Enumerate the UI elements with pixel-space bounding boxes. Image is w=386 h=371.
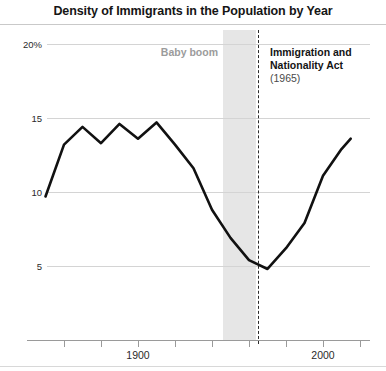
x-tick-1980 <box>286 341 287 347</box>
ina-1965-marker-line <box>258 30 259 344</box>
x-tick-1880 <box>101 341 102 347</box>
x-tick-2000 <box>323 341 324 347</box>
x-axis-line <box>27 340 370 341</box>
x-tick-1960 <box>249 341 250 347</box>
chart-container: Density of Immigrants in the Population … <box>0 0 386 371</box>
x-tick-label-2000: 2000 <box>311 349 334 361</box>
ina-annotation: Immigration and Nationality Act (1965) <box>270 46 352 85</box>
ina-annotation-line2: Nationality Act <box>270 59 352 72</box>
x-tick-label-1900: 1900 <box>126 349 149 361</box>
x-tick-1940 <box>212 341 213 347</box>
baby-boom-label: Baby boom <box>152 46 218 59</box>
x-tick-1900 <box>138 341 139 347</box>
ina-annotation-year: (1965) <box>270 72 352 85</box>
ina-annotation-line1: Immigration and <box>270 46 352 59</box>
footer-divider <box>0 366 386 367</box>
x-tick-1860 <box>64 341 65 347</box>
plot-area: 20% 15 10 5 Baby boom Immigration and Na… <box>0 0 386 371</box>
x-tick-1920 <box>175 341 176 347</box>
x-tick-2020 <box>360 341 361 347</box>
